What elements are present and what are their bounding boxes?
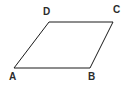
parallelogram-shape bbox=[0, 0, 126, 86]
vertex-label-a: A bbox=[9, 72, 16, 82]
parallelogram-outline bbox=[14, 22, 113, 68]
vertex-label-b: B bbox=[88, 72, 95, 82]
vertex-label-c: C bbox=[113, 5, 120, 15]
geometry-figure: A B C D bbox=[0, 0, 126, 86]
vertex-label-d: D bbox=[43, 7, 50, 17]
